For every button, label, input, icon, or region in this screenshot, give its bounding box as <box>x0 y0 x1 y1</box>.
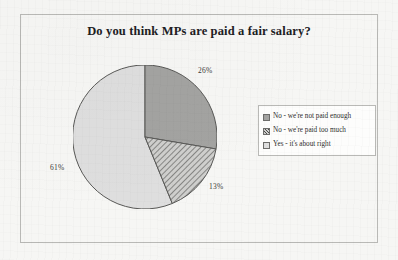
pie-svg <box>73 65 217 209</box>
pie-value-label-yes-its-about-right: 61% <box>50 163 64 172</box>
chart-title: Do you think MPs are paid a fair salary? <box>20 24 378 39</box>
pie-value-label-no-were-not-paid-enough: 26% <box>198 66 212 75</box>
legend-swatch-solid-light-gray-icon <box>263 142 270 149</box>
legend-item-no-were-not-paid-enough: No - we're not paid enough <box>263 110 371 124</box>
legend-item-no-were-paid-too-much: No - we're paid too much <box>263 124 371 138</box>
chart-legend: No - we're not paid enough No - we're pa… <box>258 105 376 156</box>
pie-slice-no-were-not-paid-enough <box>145 65 217 149</box>
legend-item-label: No - we're paid too much <box>273 127 346 134</box>
pie-chart <box>73 65 217 209</box>
chart-page: Do you think MPs are paid a fair salary?… <box>0 0 398 260</box>
legend-item-label: No - we're not paid enough <box>273 113 351 120</box>
legend-item-yes-its-about-right: Yes - it's about right <box>263 138 371 152</box>
legend-swatch-diagonal-hatch-icon <box>263 128 270 135</box>
legend-swatch-solid-medium-gray-icon <box>263 114 270 121</box>
legend-item-label: Yes - it's about right <box>273 141 331 148</box>
pie-value-label-no-were-paid-too-much: 13% <box>209 182 223 191</box>
